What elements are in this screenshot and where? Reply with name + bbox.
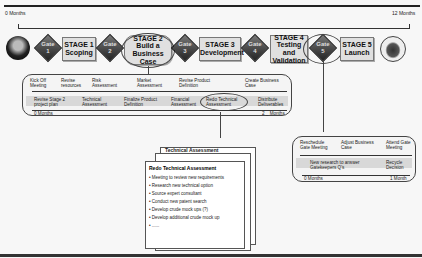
top-border <box>4 5 420 7</box>
timeline-line <box>18 28 410 29</box>
timeline-start: 0 Months <box>5 10 26 16</box>
bottom-border <box>0 254 422 257</box>
money-icon <box>380 36 406 62</box>
document-redo-technical-assessment[interactable]: Redo Technical Assessment • Meeting to r… <box>145 161 245 249</box>
lightbulb-icon <box>6 36 30 60</box>
stage-1[interactable]: STAGE 1Scoping <box>62 37 96 61</box>
stage-3[interactable]: STAGE 3Development <box>199 37 241 61</box>
stage-5[interactable]: STAGE 5Launch <box>340 37 374 61</box>
timeline-end: 12 Months <box>392 10 415 16</box>
